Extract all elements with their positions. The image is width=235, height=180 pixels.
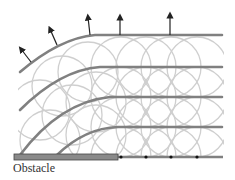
source-point [144,155,147,158]
arrow-icon [88,17,90,35]
source-point [169,155,172,158]
obstacle-label: Obstacle [13,161,55,176]
diffraction-diagram [0,0,235,180]
arrow-icon [50,29,57,45]
arrow-icon [21,49,31,62]
obstacle-bar [14,154,118,160]
source-point [119,155,122,158]
source-point [195,155,198,158]
